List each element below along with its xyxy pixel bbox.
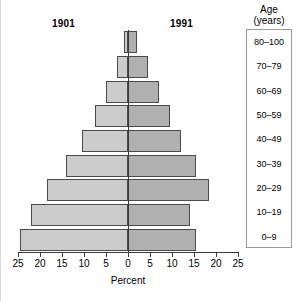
x-tick-label: 5 [94, 258, 118, 269]
x-tick [40, 252, 41, 257]
x-tick-label: 5 [138, 258, 162, 269]
x-tick [194, 252, 195, 257]
bar-1901-70-79 [117, 56, 128, 78]
age-legend-item: 80–100 [247, 30, 291, 54]
age-legend-item: 70–79 [247, 54, 291, 78]
series-label-1991: 1991 [170, 18, 193, 29]
bar-1901-10-19 [31, 204, 128, 226]
bar-1901-0-9 [20, 229, 128, 251]
x-tick [150, 252, 151, 257]
series-label-1901: 1901 [52, 18, 75, 29]
x-tick [216, 252, 217, 257]
bar-1901-20-29 [47, 179, 128, 201]
bar-1991-0-9 [128, 229, 196, 251]
x-tick-label: 10 [72, 258, 96, 269]
age-legend-title-line2: (years) [246, 15, 292, 26]
x-tick-label: 20 [204, 258, 228, 269]
x-tick-label: 25 [226, 258, 250, 269]
bar-1991-40-49 [128, 130, 181, 152]
bar-1901-60-69 [106, 81, 128, 103]
x-tick [238, 252, 239, 257]
x-tick-label: 0 [116, 258, 140, 269]
x-tick [172, 252, 173, 257]
x-tick-label: 10 [160, 258, 184, 269]
x-tick [128, 252, 129, 257]
x-tick-label: 15 [182, 258, 206, 269]
population-pyramid-figure: 1901 1991 2520151050510152025 Percent Ag… [0, 0, 298, 301]
chart-plot-area [18, 30, 238, 252]
bar-1991-20-29 [128, 179, 209, 201]
x-axis-title: Percent [18, 275, 238, 286]
age-legend-item: 40–49 [247, 127, 291, 151]
x-tick [18, 252, 19, 257]
age-legend-item: 30–39 [247, 152, 291, 176]
x-tick [106, 252, 107, 257]
x-tick-label: 15 [50, 258, 74, 269]
bar-1991-60-69 [128, 81, 159, 103]
bar-1991-30-39 [128, 155, 196, 177]
bar-1901-50-59 [95, 105, 128, 127]
age-legend-title: Age (years) [246, 4, 292, 26]
age-legend-item: 0–9 [247, 225, 291, 249]
x-tick-label: 20 [28, 258, 52, 269]
bar-1991-80-100 [128, 31, 137, 53]
bar-1901-40-49 [82, 130, 128, 152]
age-legend-item: 50–59 [247, 103, 291, 127]
center-axis-line [128, 30, 129, 252]
page-frame-line [0, 0, 1, 301]
bar-1991-10-19 [128, 204, 190, 226]
x-tick [84, 252, 85, 257]
age-legend-item: 20–29 [247, 176, 291, 200]
x-tick [62, 252, 63, 257]
bar-1991-50-59 [128, 105, 170, 127]
age-legend-title-line1: Age [246, 4, 292, 15]
bar-1901-30-39 [66, 155, 128, 177]
bar-1991-70-79 [128, 56, 148, 78]
x-tick-label: 25 [6, 258, 30, 269]
age-legend-item: 10–19 [247, 200, 291, 224]
age-legend-box: 80–10070–7960–6950–5940–4930–3920–2910–1… [246, 29, 292, 248]
age-legend-item: 60–69 [247, 79, 291, 103]
age-legend: Age (years) 80–10070–7960–6950–5940–4930… [246, 4, 292, 248]
